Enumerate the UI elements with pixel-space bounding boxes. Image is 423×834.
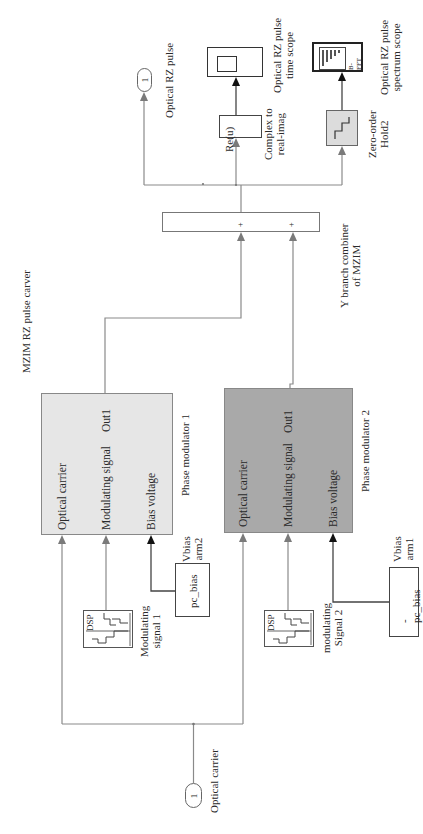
- spectrum-scope-block[interactable]: B-FFT: [312, 42, 363, 72]
- modulating-signal-1-block[interactable]: DSP: [83, 610, 133, 648]
- phase-modulator-2[interactable]: Optical carrier Modulating signal Bias v…: [224, 388, 353, 533]
- vbias-arm1-label: Vbias arm1: [391, 536, 415, 562]
- pm2-port-bias-voltage: Bias voltage: [327, 470, 339, 527]
- time-scope-block[interactable]: [207, 47, 263, 77]
- pm1-port-modulating-signal: Modulating signal: [100, 446, 112, 530]
- zero-order-hold-label: Zero-order Hold2: [366, 110, 390, 158]
- combiner-plus-1: +: [238, 219, 243, 229]
- inport-1[interactable]: 1: [185, 783, 202, 808]
- spectrum-scope-label: Optical RZ pulse spectrum scope: [378, 20, 402, 95]
- combiner-label: Y branch combiner of MZIM: [338, 223, 362, 308]
- pm2-port-out1: Out1: [282, 410, 294, 433]
- time-scope-label: Optical RZ pulse time scope: [271, 18, 295, 93]
- pulse-waveform-icon: [84, 611, 132, 647]
- vbias-arm2-label: Vbias arm2: [180, 536, 204, 562]
- inport-number: 1: [189, 793, 199, 798]
- inport-label: Optical carrier: [208, 749, 220, 813]
- modulating-signal-2-block[interactable]: DSP: [264, 610, 314, 647]
- outport-number: 1: [140, 78, 150, 83]
- vbias-arm2-constant[interactable]: pc_bias: [175, 563, 210, 617]
- y-branch-combiner[interactable]: + +: [162, 212, 320, 232]
- scope-screen-icon: [217, 56, 237, 72]
- modulating-signal-2-label: modulating Signal 2: [320, 603, 344, 653]
- vbias-arm1-constant[interactable]: -pc_bias: [389, 567, 419, 637]
- re-u-text: Re(u): [223, 127, 235, 152]
- spectrum-bars-icon: [319, 47, 346, 70]
- pm2-port-modulating-signal: Modulating signal: [282, 443, 294, 527]
- staircase-icon: [327, 111, 357, 145]
- b-fft-text: B-FFT: [347, 56, 363, 70]
- pm1-port-optical-carrier: Optical carrier: [56, 463, 68, 530]
- outport-label: Optical RZ pulse: [163, 43, 175, 118]
- outport-1[interactable]: 1: [137, 68, 152, 92]
- complex-to-real-imag-block[interactable]: Re(u): [219, 115, 262, 138]
- phase-modulator-2-label: Phase modulator 2: [359, 410, 371, 492]
- pc-bias-value: pc_bias: [187, 574, 199, 608]
- combiner-plus-2: +: [289, 219, 294, 229]
- pulse-waveform-icon: [265, 611, 313, 646]
- zero-order-hold-block[interactable]: [326, 110, 358, 146]
- phase-modulator-1[interactable]: Optical carrier Modulating signal Bias v…: [41, 393, 173, 535]
- pm2-port-optical-carrier: Optical carrier: [237, 460, 249, 527]
- complex-to-real-label: Complex to real-imag: [262, 108, 286, 160]
- modulating-signal-1-label: Modulating signal 1: [138, 606, 162, 657]
- phase-modulator-1-label: Phase modulator 1: [179, 414, 191, 496]
- pm1-port-out1: Out1: [100, 409, 112, 432]
- pm1-port-bias-voltage: Bias voltage: [145, 473, 157, 530]
- subsystem-title: MZIM RZ pulse carver: [20, 270, 32, 373]
- neg-pc-bias-value: -pc_bias: [398, 589, 422, 623]
